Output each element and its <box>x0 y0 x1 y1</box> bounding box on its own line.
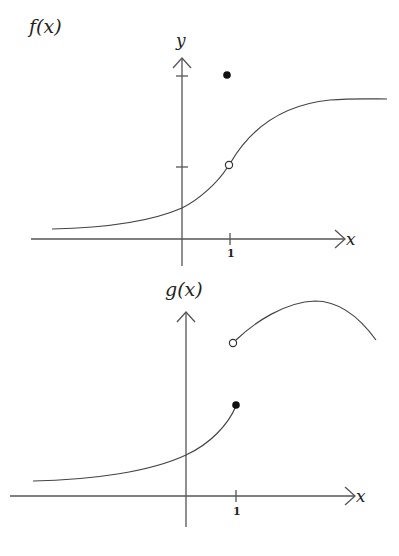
open-circle-icon <box>229 339 236 346</box>
y-axis-label: y <box>175 30 186 50</box>
x-axis-label: x <box>346 229 356 249</box>
f-curve-left <box>52 168 227 229</box>
graphs-canvas: f(x) y x 1 g(x) x 1 <box>0 0 399 556</box>
f-curve-right <box>231 99 387 162</box>
filled-dot-icon <box>232 401 240 409</box>
g-curve-right <box>236 301 376 340</box>
graph-f-title: f(x) <box>27 15 62 37</box>
filled-dot-icon <box>223 71 231 79</box>
graph-g-title: g(x) <box>165 278 203 300</box>
g-curve-left <box>33 406 236 481</box>
graph-f: f(x) y x 1 <box>27 15 387 266</box>
graph-g: g(x) x 1 <box>10 278 376 527</box>
x-tick-label: 1 <box>233 505 241 518</box>
open-circle-icon <box>225 161 232 168</box>
x-tick-label: 1 <box>227 247 235 260</box>
x-axis-label: x <box>356 486 366 506</box>
